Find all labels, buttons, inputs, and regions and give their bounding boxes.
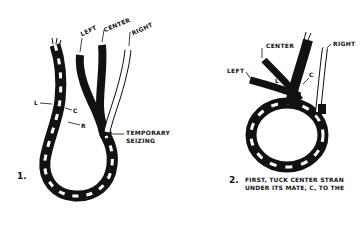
figure-2-number: 2. [229, 176, 239, 185]
figure-2-caption-line2: UNDER ITS MATE, C, TO THE [245, 185, 344, 191]
label-seizing: SEIZING [126, 138, 155, 144]
label-c: C [73, 108, 78, 114]
figure-1-rope [40, 30, 130, 196]
figure-2-rope [246, 32, 331, 167]
figure-1-number: 1. [17, 172, 27, 181]
label-c-2: C [309, 72, 314, 78]
figure-2-caption-line1: FIRST, TUCK CENTER STRAN [245, 177, 344, 183]
label-temporary: TEMPORARY [126, 130, 170, 136]
label-left-strand-2: LEFT [227, 68, 244, 74]
label-center-strand-2: CENTER [266, 43, 294, 49]
label-l: L [34, 100, 38, 106]
label-right-strand-2: RIGHT [333, 41, 355, 47]
label-l-2: L [275, 78, 279, 84]
label-r: R [81, 123, 86, 129]
